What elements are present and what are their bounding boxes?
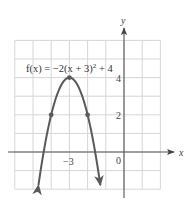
tick-label-x-0: 0 bbox=[116, 155, 121, 166]
data-point bbox=[85, 112, 90, 117]
tick-label-y-4: 4 bbox=[116, 73, 121, 84]
tick-label-y-2: 2 bbox=[116, 110, 121, 121]
equation-main: f(x) = −2(x + 3) bbox=[26, 63, 93, 75]
data-point bbox=[49, 112, 54, 117]
function-equation: f(x) = −2(x + 3)2 + 4 bbox=[26, 62, 113, 75]
equation-constant: + 4 bbox=[96, 63, 113, 74]
tick-label-x-neg3: −3 bbox=[63, 156, 74, 167]
x-axis-label: x bbox=[178, 147, 184, 158]
y-axis-label: y bbox=[120, 15, 126, 26]
parabola-graph: x y −3 0 2 4 f(x) = −2(x + 3)2 + 4 bbox=[0, 0, 191, 204]
data-point bbox=[67, 75, 72, 80]
